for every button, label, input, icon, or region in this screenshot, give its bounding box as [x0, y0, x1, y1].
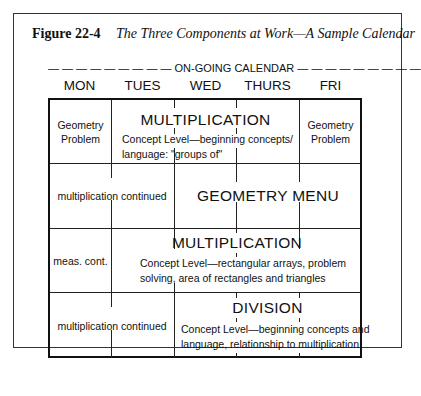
cell-span-desc-row3-line2: solving, area of rectangles and triangle…	[140, 271, 326, 286]
cell-fri-row1: Geometry Problem	[300, 100, 361, 163]
cell-span-title-row3: MULTIPLICATION	[174, 233, 300, 253]
cell-span-desc-row4-line2: language, relationship to multiplication	[181, 337, 359, 352]
cell-span-desc-row1-line2: language: "groups of"	[122, 147, 222, 162]
cell-span-title-row1: MULTIPLICATION	[112, 110, 299, 130]
ongoing-calendar-label: — — — — — — — — — ON-GOING CALENDAR — — …	[48, 62, 361, 74]
column-divider	[111, 229, 112, 292]
cell-span-desc-row1-line1: Concept Level—beginning concepts/	[122, 132, 293, 147]
day-header-fri: FRI	[299, 78, 362, 93]
calendar-table: Geometry Problem MULTIPLICATION Concept …	[48, 98, 362, 358]
tick-mark	[299, 353, 300, 358]
day-header-wed: WED	[174, 78, 237, 93]
day-header-tues: TUES	[111, 78, 174, 93]
cell-span-title-row4: DIVISION	[236, 298, 299, 318]
cell-span-title-row2: GEOMETRY MENU	[175, 164, 361, 228]
cell-mon-row3: meas. cont.	[50, 229, 111, 292]
tick-mark	[299, 293, 300, 298]
day-header-thurs: THURS	[236, 78, 299, 93]
figure-caption: Figure 22-4 The Three Components at Work…	[32, 26, 402, 42]
tick-mark	[236, 148, 237, 163]
cell-montues-row2: multiplication continued	[50, 164, 174, 228]
day-header-mon: MON	[48, 78, 111, 93]
cell-mon-row1: Geometry Problem	[50, 100, 111, 163]
tick-mark	[236, 353, 237, 358]
column-divider	[174, 293, 175, 358]
figure-number: Figure 22-4	[32, 26, 101, 41]
cell-span-desc-row4-line1: Concept Level—beginning concepts and	[181, 322, 370, 337]
figure-title: The Three Components at Work—A Sample Ca…	[116, 26, 415, 41]
tick-mark	[236, 100, 237, 108]
tick-mark	[174, 100, 175, 108]
cell-montues-row4: multiplication continued	[50, 293, 174, 358]
cell-span-desc-row3-line1: Concept Level—rectangular arrays, proble…	[140, 256, 346, 271]
